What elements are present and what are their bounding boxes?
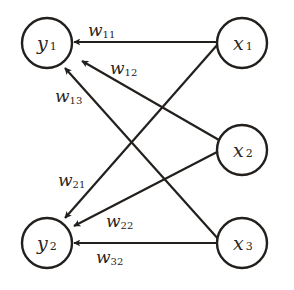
diagram-canvas: y1 y2 x1 x2 x3 w11 w12 w13 w21 w22 w32 <box>0 0 294 290</box>
node-y1-sub: 1 <box>50 40 57 53</box>
label-w21: w21 <box>58 170 85 190</box>
node-x2: x2 <box>217 125 267 175</box>
network-diagram: y1 y2 x1 x2 x3 w11 w12 w13 w21 w22 w32 <box>0 0 294 290</box>
node-x1-sub: 1 <box>246 40 253 53</box>
label-w22: w22 <box>106 211 133 231</box>
node-y2: y2 <box>22 218 72 268</box>
node-y2-sub: 2 <box>50 240 57 253</box>
node-x2-sub: 2 <box>246 147 253 160</box>
label-w12: w12 <box>110 58 137 78</box>
node-x3: x3 <box>217 218 267 268</box>
label-w13: w13 <box>55 86 82 106</box>
edge-x3-y1 <box>65 68 220 241</box>
node-x3-sub: 3 <box>246 240 253 253</box>
node-y1: y1 <box>22 18 72 68</box>
node-x2-var: x <box>233 139 244 161</box>
node-y2-var: y <box>36 232 48 254</box>
node-y1-var: y <box>36 32 48 54</box>
node-x1-var: x <box>233 32 244 54</box>
label-w11: w11 <box>88 20 115 40</box>
edge-x2-y1 <box>82 61 219 140</box>
node-x1: x1 <box>217 18 267 68</box>
node-x3-var: x <box>233 232 244 254</box>
edges <box>65 42 220 243</box>
label-w32: w32 <box>96 247 123 267</box>
